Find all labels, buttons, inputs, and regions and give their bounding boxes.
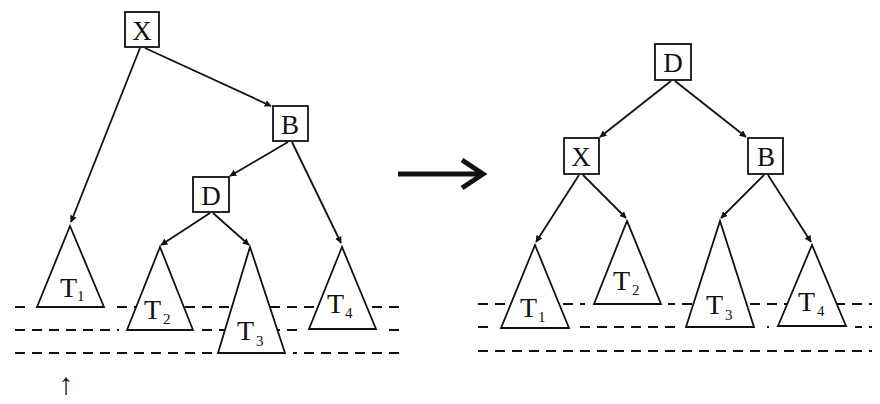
edge-x-t1 [71, 48, 140, 222]
node-b-after: B [748, 138, 783, 174]
edge-d-x [600, 81, 671, 137]
t2-label: T [613, 265, 630, 296]
subtree-t2: T 2 [119, 247, 200, 330]
before-tree: T 1 T 2 T 3 T 4 X B [15, 12, 400, 400]
node-label: X [571, 142, 591, 172]
node-label: B [757, 142, 775, 172]
edge-b-d [230, 142, 288, 176]
transition-arrow-icon [398, 160, 483, 188]
edge-d-t2 [161, 213, 210, 245]
before-edges [71, 48, 341, 245]
t4-subscript: 4 [345, 305, 353, 321]
t2-label: T [144, 294, 161, 325]
edge-d-t3 [213, 213, 249, 245]
subtree-t4: T 4 [300, 247, 383, 329]
avl-rotation-diagram: T 1 T 2 T 3 T 4 X B [0, 0, 880, 404]
t3-label: T [706, 289, 723, 320]
node-b-before: B [273, 106, 308, 141]
t3-subscript: 3 [256, 333, 264, 349]
edge-x-t1 [536, 175, 579, 242]
t1-label: T [520, 292, 537, 323]
edge-x-t2 [583, 175, 626, 218]
t4-label: T [798, 286, 815, 317]
subtree-t4-after: T 4 [769, 245, 855, 326]
t2-subscript: 2 [163, 311, 171, 327]
subtree-t2-after: T 2 [585, 221, 668, 304]
edge-b-t3 [721, 175, 764, 218]
t1-label: T [60, 272, 77, 303]
edge-b-t4 [292, 142, 341, 243]
after-tree: T 1 T 2 T 3 T 4 D X [478, 44, 872, 351]
edge-b-t4 [768, 175, 811, 242]
up-arrow-icon: ↑ [59, 367, 74, 400]
node-label: D [663, 48, 683, 78]
t4-subscript: 4 [817, 303, 825, 319]
t3-subscript: 3 [725, 307, 733, 323]
node-x-before: X [125, 12, 159, 47]
subtree-t1-after: T 1 [493, 245, 578, 328]
t4-label: T [327, 288, 344, 319]
t1-subscript: 1 [77, 288, 85, 304]
node-d-after: D [655, 44, 691, 80]
t1-subscript: 1 [538, 309, 546, 325]
node-d-before: D [193, 177, 229, 212]
subtree-t3: T 3 [213, 247, 293, 353]
edge-d-b [675, 81, 746, 137]
node-x-after: X [564, 138, 599, 174]
node-label: D [201, 181, 221, 211]
subtree-t1: T 1 [28, 226, 112, 307]
t3-label: T [237, 315, 254, 346]
node-label: X [132, 16, 152, 46]
subtree-t3-after: T 3 [678, 221, 763, 327]
t2-subscript: 2 [632, 282, 640, 298]
edge-x-b [145, 48, 271, 106]
node-label: B [281, 110, 299, 140]
